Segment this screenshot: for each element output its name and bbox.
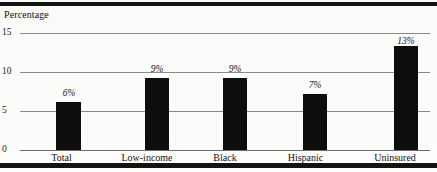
gridline-15	[20, 33, 430, 34]
bar-uninsured	[394, 46, 418, 150]
top-rule	[0, 2, 437, 6]
bar-hispanic	[303, 94, 327, 150]
bar-low-income	[145, 78, 169, 150]
y-tick-label-5: 5	[2, 105, 7, 115]
category-label-uninsured: Uninsured	[355, 152, 435, 163]
category-label-hispanic: Hispanic	[268, 152, 343, 163]
bar-value-hispanic: 7%	[295, 80, 335, 90]
bar-total	[56, 102, 81, 150]
bar-value-uninsured: 13%	[386, 36, 426, 46]
chart-figure: Percentage 6% 9% 9% 7% 13% 15 10 5 0 Tot…	[0, 0, 437, 172]
category-label-low-income: Low-income	[107, 152, 187, 163]
category-label-black: Black	[195, 152, 255, 163]
category-label-total: Total	[29, 152, 94, 163]
bottom-rule	[0, 163, 437, 168]
y-tick-label-10: 10	[2, 66, 12, 76]
y-tick-label-15: 15	[2, 27, 12, 37]
bar-value-total: 6%	[49, 88, 89, 98]
bar-value-low-income: 9%	[137, 64, 177, 74]
y-tick-label-0: 0	[2, 144, 7, 154]
y-axis-title: Percentage	[4, 9, 49, 20]
bar-black	[223, 78, 247, 150]
plot-area: 6% 9% 9% 7% 13%	[20, 30, 430, 150]
gridline-0	[20, 150, 430, 151]
bar-value-black: 9%	[215, 64, 255, 74]
